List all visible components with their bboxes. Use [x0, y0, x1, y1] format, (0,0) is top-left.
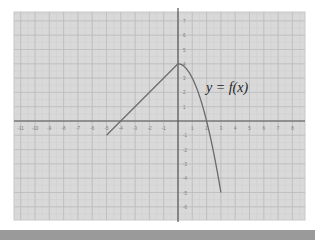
- chart-root: -11-10-9-8-7-6-5-4-3-2-1123456787654321-…: [0, 0, 315, 240]
- y-tick-label: -5: [183, 191, 187, 196]
- x-tick-label: -10: [32, 126, 39, 131]
- plot-area: [14, 12, 305, 220]
- y-tick-label: -1: [183, 133, 187, 138]
- y-tick-label: -2: [183, 148, 187, 153]
- y-tick-label: -4: [183, 176, 187, 181]
- bottom-bar: [0, 230, 315, 240]
- x-tick-label: -6: [90, 126, 94, 131]
- y-tick-label: -3: [183, 162, 187, 167]
- x-tick-label: -8: [62, 126, 66, 131]
- function-graph: -11-10-9-8-7-6-5-4-3-2-1123456787654321-…: [0, 0, 315, 240]
- x-tick-label: -7: [76, 126, 80, 131]
- x-tick-label: -4: [119, 126, 123, 131]
- x-tick-label: -5: [104, 126, 108, 131]
- x-tick-label: -11: [18, 126, 25, 131]
- y-tick-label: -6: [183, 205, 187, 210]
- function-label: y = f(x): [206, 80, 248, 96]
- x-tick-label: -9: [47, 126, 51, 131]
- x-tick-label: -3: [133, 126, 137, 131]
- x-tick-label: -1: [162, 126, 166, 131]
- x-tick-label: -2: [147, 126, 151, 131]
